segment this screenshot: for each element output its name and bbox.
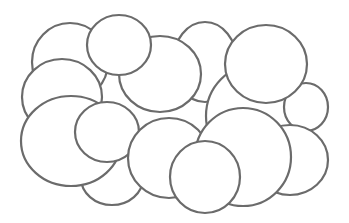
ellipse-top-small: [87, 15, 151, 75]
ellipse-bottom-front-circle: [170, 141, 240, 213]
overlapping-circles-drawing: [0, 0, 349, 223]
ellipse-top-right-circle: [225, 25, 307, 103]
ellipse-group: [21, 15, 328, 213]
